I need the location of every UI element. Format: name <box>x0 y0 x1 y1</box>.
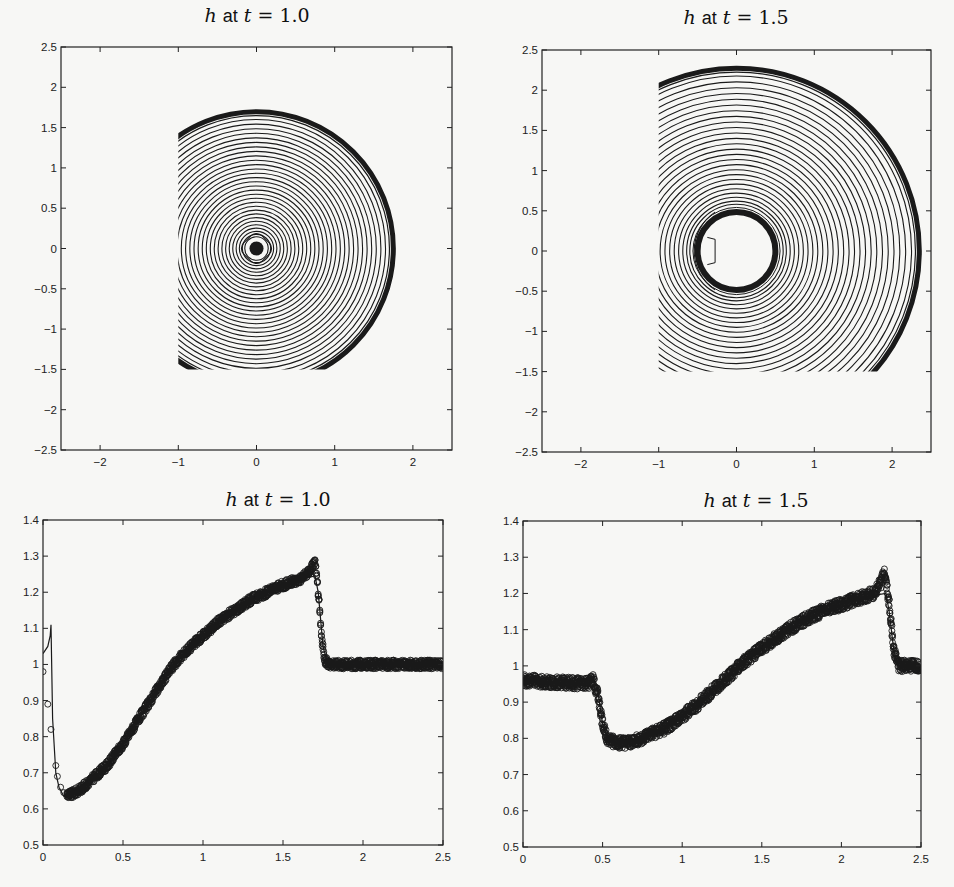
profile-plot-t15: 00.511.522.50.50.60.70.80.911.11.21.31.4 <box>0 0 954 887</box>
x-tick-label: 2.5 <box>913 853 929 865</box>
x-tick-label: 1.5 <box>754 853 770 865</box>
y-tick-label: 1.2 <box>503 587 519 599</box>
y-tick-label: 0.6 <box>503 805 519 817</box>
x-tick-label: 2 <box>838 853 844 865</box>
x-tick-label: 0.5 <box>595 853 611 865</box>
y-tick-label: 1 <box>513 660 519 672</box>
x-tick-label: 0 <box>520 853 526 865</box>
y-tick-label: 1.1 <box>503 624 519 636</box>
y-tick-label: 1.4 <box>503 515 520 527</box>
y-tick-label: 0.8 <box>503 732 519 744</box>
reference-line <box>523 593 921 743</box>
y-tick-label: 1.3 <box>503 551 519 563</box>
numerical-markers <box>520 566 924 751</box>
y-tick-label: 0.9 <box>503 696 519 708</box>
y-tick-label: 0.5 <box>503 841 519 853</box>
x-tick-label: 1 <box>679 853 685 865</box>
y-tick-label: 0.7 <box>503 769 519 781</box>
